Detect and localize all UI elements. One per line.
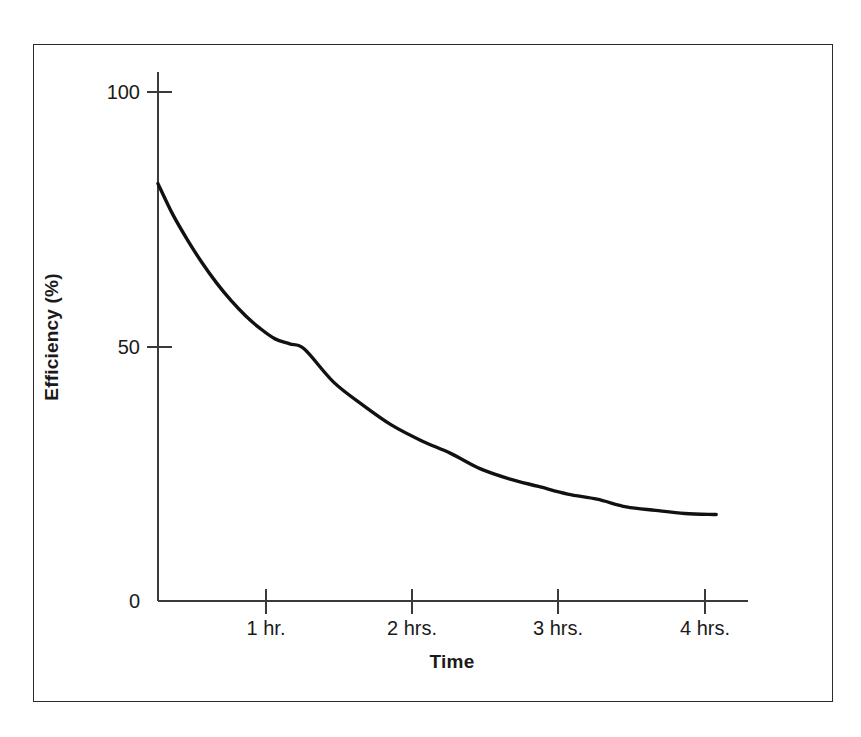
x-tick-label-3hrs: 3 hrs. [533,617,583,640]
x-tick-label-4hrs: 4 hrs. [680,617,730,640]
y-tick-label-0: 0 [129,590,140,613]
x-tick-label-1hr: 1 hr. [247,617,286,640]
efficiency-decay-curve [158,184,716,515]
y-axis-title: Efficiency (%) [41,273,63,400]
x-tick-label-2hrs: 2 hrs. [387,617,437,640]
x-axis-title: Time [430,651,475,673]
y-tick-label-100: 100 [107,81,140,104]
y-tick-label-50: 50 [118,336,140,359]
